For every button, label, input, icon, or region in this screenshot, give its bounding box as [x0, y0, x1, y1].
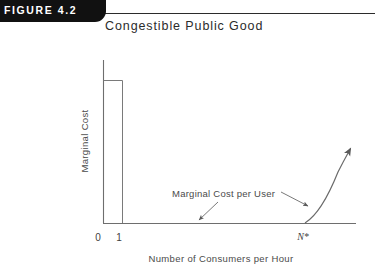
x-axis-label: Number of Consumers per Hour [149, 253, 294, 264]
annotation-leader-right [281, 192, 308, 206]
x-tick-label-n-star: N* [296, 231, 309, 242]
chart-canvas: Marginal Cost Number of Consumers per Ho… [0, 0, 375, 275]
y-axis-label: Marginal Cost [79, 109, 90, 172]
annotation-leader-left [199, 202, 218, 220]
x-tick-label-0: 0 [95, 232, 101, 243]
marginal-cost-curve [305, 149, 351, 224]
marginal-cost-annotation: Marginal Cost per User [172, 188, 275, 199]
chart-figure: Marginal Cost Number of Consumers per Ho… [0, 0, 375, 275]
x-tick-label-1: 1 [116, 232, 122, 243]
first-user-cost-step [104, 81, 123, 224]
